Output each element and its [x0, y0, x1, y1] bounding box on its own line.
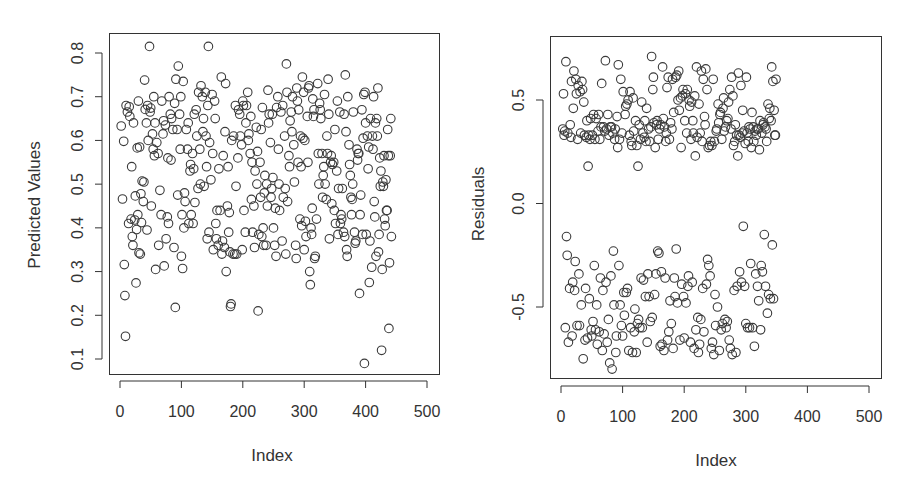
- data-point: [672, 245, 681, 254]
- data-point: [703, 255, 712, 264]
- x-tick-label: 100: [609, 408, 636, 425]
- data-point: [196, 145, 205, 154]
- data-point: [347, 210, 356, 219]
- data-point: [191, 198, 200, 207]
- data-point: [245, 130, 254, 139]
- data-point: [568, 332, 577, 341]
- data-point: [304, 158, 313, 167]
- data-point: [285, 151, 294, 160]
- data-point: [738, 106, 747, 115]
- data-point: [156, 186, 165, 195]
- data-point: [761, 282, 770, 291]
- chart-figure: 0100200300400500 0.10.20.30.40.50.60.70.…: [0, 0, 914, 493]
- data-point: [308, 204, 317, 213]
- data-point: [750, 342, 759, 351]
- data-point: [125, 103, 134, 112]
- data-point: [613, 112, 622, 121]
- data-point: [584, 162, 593, 171]
- data-point: [291, 241, 300, 250]
- y-axis-title: Predicted Values: [25, 141, 44, 268]
- data-point: [383, 206, 392, 215]
- data-point: [302, 232, 311, 241]
- data-point: [681, 116, 690, 125]
- data-point: [236, 132, 245, 141]
- data-point: [305, 267, 314, 276]
- data-point: [320, 90, 329, 99]
- data-point: [202, 162, 211, 171]
- data-point: [232, 182, 241, 191]
- data-point: [753, 282, 762, 291]
- data-point: [616, 301, 625, 310]
- data-point: [150, 92, 159, 101]
- data-point: [651, 143, 660, 152]
- data-point: [579, 355, 588, 364]
- data-point: [264, 86, 273, 95]
- data-point: [649, 85, 658, 94]
- data-point: [171, 303, 180, 312]
- data-point: [254, 307, 263, 316]
- data-point: [306, 280, 315, 289]
- data-point: [709, 75, 718, 84]
- data-point: [597, 79, 606, 88]
- data-point: [691, 152, 700, 161]
- data-point: [250, 243, 259, 252]
- data-point: [117, 122, 126, 131]
- x-tick-label: 500: [414, 403, 441, 420]
- data-point: [290, 178, 299, 187]
- data-point: [211, 114, 220, 123]
- x-axis-title: Index: [251, 446, 293, 465]
- data-point: [663, 336, 672, 345]
- data-point: [139, 197, 148, 206]
- data-point: [300, 245, 309, 254]
- data-point: [562, 232, 571, 241]
- data-point: [754, 297, 763, 306]
- y-tick-label: 0.6: [69, 129, 86, 151]
- data-point: [603, 338, 612, 347]
- data-point: [177, 92, 186, 101]
- data-point: [129, 241, 138, 250]
- data-point: [598, 346, 607, 355]
- data-point: [181, 197, 190, 206]
- data-point: [596, 274, 605, 283]
- data-point: [129, 119, 138, 128]
- data-point: [601, 56, 610, 65]
- data-point: [377, 167, 386, 176]
- x-tick-label: 400: [352, 403, 379, 420]
- x-tick-label: 100: [168, 403, 195, 420]
- data-point: [274, 145, 283, 154]
- data-point: [644, 270, 653, 279]
- data-point: [566, 121, 575, 130]
- y-axis: 0.10.20.30.40.50.60.70.8: [69, 42, 102, 370]
- data-point: [147, 202, 156, 211]
- data-point: [118, 195, 127, 204]
- data-point: [684, 272, 693, 281]
- data-point: [381, 221, 390, 230]
- data-point: [658, 340, 667, 349]
- data-point: [258, 232, 267, 241]
- y-axis-title: Residuals: [469, 167, 488, 242]
- data-point: [248, 158, 257, 167]
- data-point: [760, 230, 769, 239]
- data-point: [360, 359, 369, 368]
- data-point: [385, 259, 394, 268]
- data-point: [762, 137, 771, 146]
- data-point: [208, 149, 217, 158]
- data-point: [222, 267, 231, 276]
- data-point: [385, 324, 394, 333]
- data-point: [663, 83, 672, 92]
- data-point: [325, 235, 334, 244]
- data-point: [312, 215, 321, 224]
- data-point: [769, 77, 778, 86]
- data-point: [332, 167, 341, 176]
- data-point: [589, 317, 598, 326]
- data-point: [285, 162, 294, 171]
- data-point: [375, 230, 384, 239]
- data-point: [251, 167, 260, 176]
- data-point: [694, 313, 703, 322]
- data-point: [742, 73, 751, 82]
- data-point: [592, 301, 601, 310]
- data-point: [160, 262, 169, 271]
- data-point: [256, 158, 265, 167]
- data-point: [755, 145, 764, 154]
- data-point: [261, 171, 270, 180]
